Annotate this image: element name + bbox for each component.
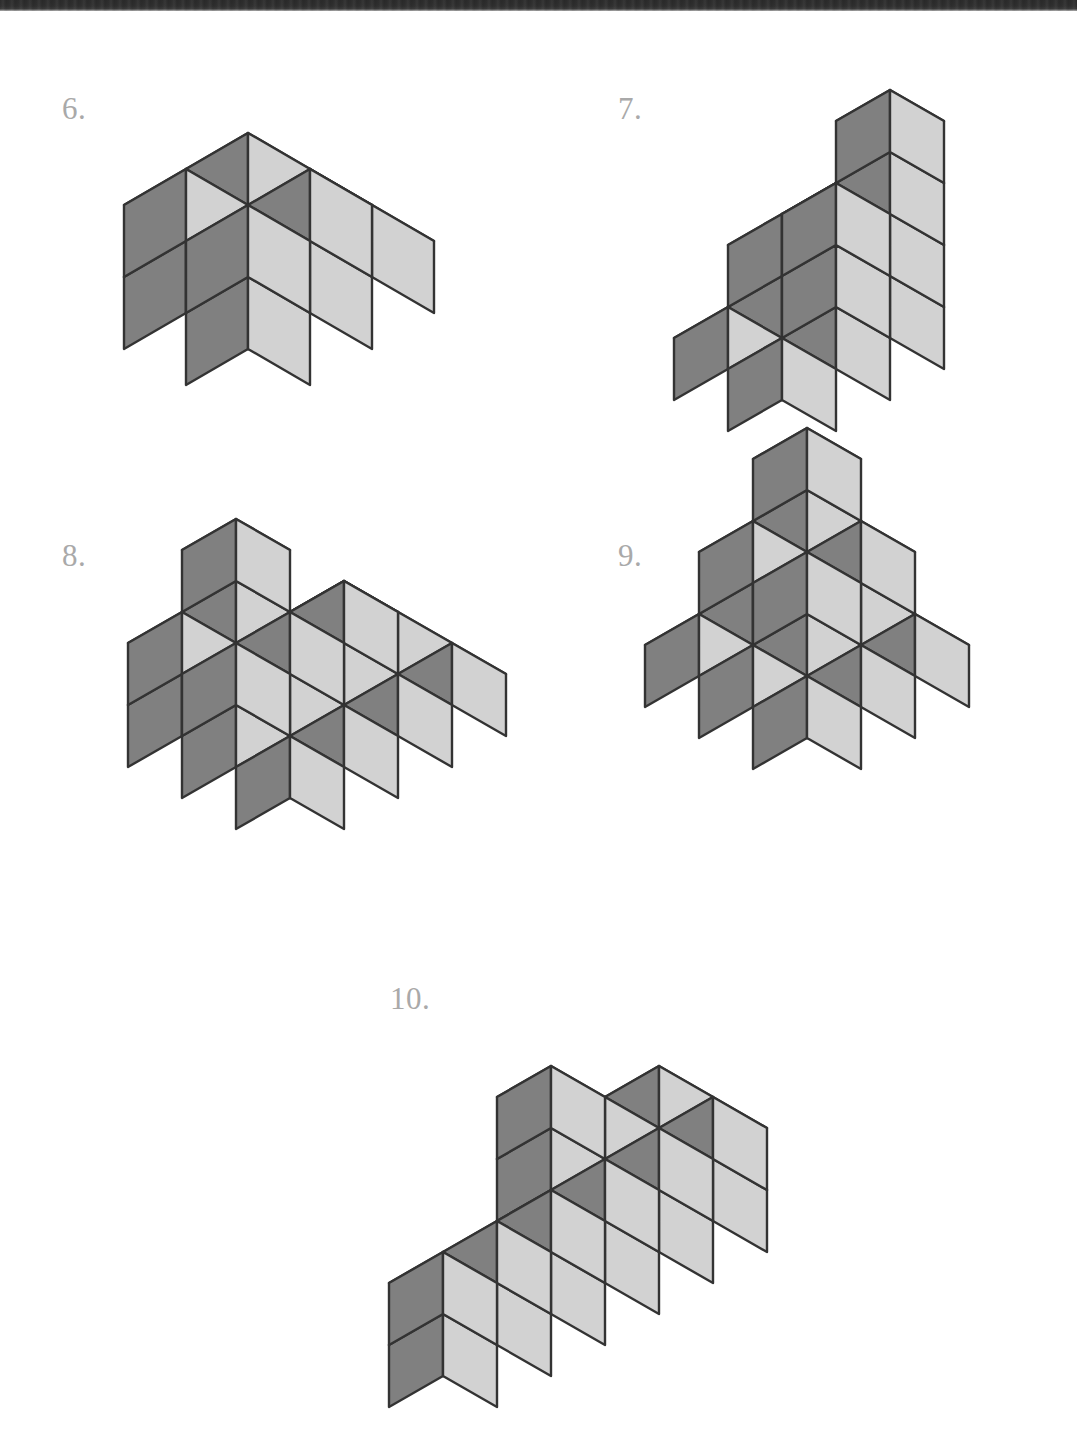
- isometric-figure-10: [0, 0, 1077, 1445]
- figure-10-cubes: [389, 1066, 767, 1407]
- worksheet-page: 6. 7. 8. 9. 10.: [0, 0, 1077, 1445]
